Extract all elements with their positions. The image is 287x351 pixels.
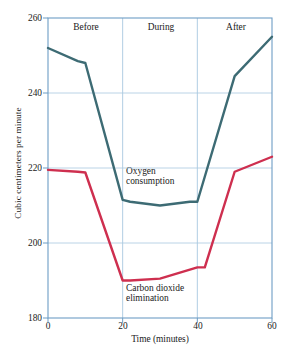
plot-area bbox=[0, 0, 287, 351]
data-series bbox=[48, 37, 272, 281]
series-line-oxygen-consumption bbox=[48, 37, 272, 206]
series-line-carbon-dioxide-elimination bbox=[48, 157, 272, 281]
chart-container: Cubic centimeters per minute 260 240 220… bbox=[0, 0, 287, 351]
gridlines bbox=[48, 93, 272, 243]
